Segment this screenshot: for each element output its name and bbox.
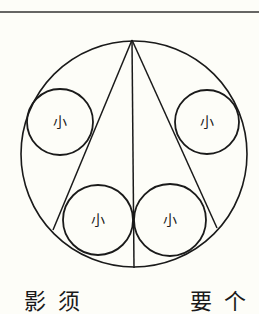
circle-label: 小 — [91, 212, 105, 228]
chord-lines — [53, 40, 217, 268]
circle-label: 小 — [200, 114, 214, 130]
left-chord — [53, 40, 132, 230]
caption-right: 要个 — [190, 291, 258, 313]
right-chord — [132, 40, 217, 228]
small-circle-upper-right: 小 — [175, 90, 239, 154]
circle-label: 小 — [163, 212, 177, 228]
caption-left: 影须 — [24, 291, 92, 313]
small-circle-upper-left: 小 — [27, 89, 93, 155]
small-circle-lower-left: 小 — [63, 185, 133, 255]
small-circle-lower-right: 小 — [134, 184, 206, 256]
circle-label: 小 — [53, 114, 67, 130]
center-line — [132, 40, 134, 268]
